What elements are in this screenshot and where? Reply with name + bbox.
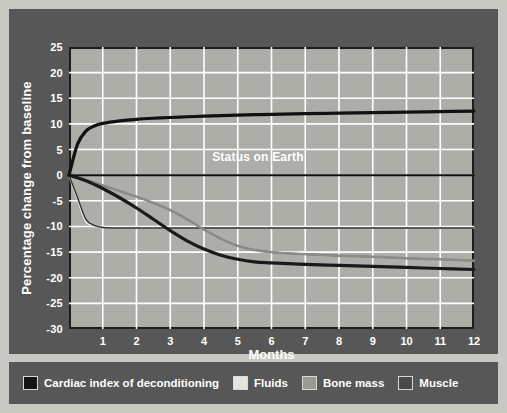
y-tick-label: -15 <box>46 246 63 258</box>
x-tick-label: 5 <box>235 335 241 347</box>
series-line <box>69 175 474 228</box>
x-tick-label: 6 <box>268 335 274 347</box>
series-line <box>69 175 474 269</box>
series-lines <box>69 47 474 329</box>
series-line <box>69 111 474 175</box>
x-tick-label: 11 <box>434 335 446 347</box>
x-tick-label: 1 <box>100 335 106 347</box>
y-tick-label: -10 <box>46 220 63 232</box>
series-line <box>69 175 474 261</box>
x-tick-label: 7 <box>302 335 308 347</box>
x-tick-label: 2 <box>133 335 139 347</box>
chart-figure: Percentage change from baseline 25201510… <box>0 0 507 413</box>
x-tick-label: 4 <box>201 335 207 347</box>
x-axis-title: Months <box>69 347 474 362</box>
chart-panel: Percentage change from baseline 25201510… <box>9 9 498 354</box>
plot-wrapper: 2520151050-5-10-15-20-25-30 123456789101… <box>69 47 474 329</box>
series-line <box>69 175 474 261</box>
legend-item: Bone mass <box>302 376 384 390</box>
series-line <box>69 175 474 228</box>
legend-swatch-muscle <box>398 376 413 390</box>
y-tick-label: 0 <box>57 169 63 181</box>
x-tick-label: 3 <box>167 335 173 347</box>
y-tick-label: 25 <box>50 41 63 53</box>
status-on-earth-annotation: Status on Earth <box>212 150 304 164</box>
legend-label-bone-mass: Bone mass <box>323 377 384 389</box>
y-tick-label: 5 <box>57 144 63 156</box>
y-tick-label: 20 <box>50 67 63 79</box>
legend-swatch-cardiac <box>23 376 38 390</box>
x-tick-label: 8 <box>336 335 342 347</box>
y-tick-label: -20 <box>46 272 63 284</box>
y-axis-title: Percentage change from baseline <box>15 47 37 329</box>
y-tick-label: 10 <box>50 118 63 130</box>
y-tick-label: -30 <box>46 323 63 335</box>
legend-item: Muscle <box>398 376 458 390</box>
legend-label-cardiac: Cardiac index of deconditioning <box>44 377 219 389</box>
legend-item: Fluids <box>233 376 288 390</box>
x-tick-label: 9 <box>370 335 376 347</box>
legend-item: Cardiac index of deconditioning <box>23 376 219 390</box>
legend-swatch-bone-mass <box>302 376 317 390</box>
x-tick-label: 10 <box>400 335 412 347</box>
legend-label-fluids: Fluids <box>254 377 288 389</box>
y-tick-label: -5 <box>53 195 63 207</box>
y-tick-label: 15 <box>50 92 63 104</box>
chart-legend: Cardiac index of deconditioning Fluids B… <box>9 362 498 404</box>
y-tick-label: -25 <box>46 297 63 309</box>
legend-swatch-fluids <box>233 376 248 390</box>
legend-label-muscle: Muscle <box>419 377 458 389</box>
x-tick-label: 12 <box>468 335 480 347</box>
